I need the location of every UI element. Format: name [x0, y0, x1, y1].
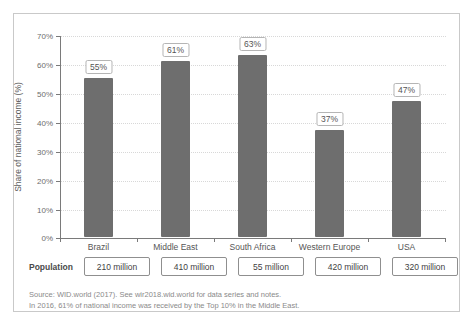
bar-value-label-usa: 47%	[393, 83, 420, 97]
category-label-usa: USA	[368, 242, 445, 252]
category-label-western-europe: Western Europe	[291, 242, 368, 252]
y-tick-label-70: 70%	[37, 32, 53, 41]
source-notes: Source: WID.world (2017). See wir2018.wi…	[29, 289, 439, 311]
bar-value-label-south-africa: 63%	[239, 37, 266, 51]
population-box-western-europe: 420 million	[315, 257, 381, 276]
bar-brazil[interactable]	[84, 78, 113, 237]
bar-middle-east[interactable]	[161, 61, 190, 237]
bar-usa[interactable]	[392, 101, 421, 237]
y-tick-label-30: 30%	[37, 148, 53, 157]
bar-western-europe[interactable]	[315, 130, 344, 237]
bar-wrap-middle-east: 61%	[161, 35, 190, 237]
bar-value-label-brazil: 55%	[85, 60, 112, 74]
y-tick-label-20: 20%	[37, 177, 53, 186]
bar-group-brazil: 55%	[60, 35, 137, 237]
category-label-south-africa: South Africa	[214, 242, 291, 252]
bar-wrap-south-africa: 63%	[238, 35, 267, 237]
bar-value-label-middle-east: 61%	[162, 43, 189, 57]
population-row: Population 210 million 410 million 55 mi…	[22, 257, 454, 279]
category-label-middle-east: Middle East	[137, 242, 214, 252]
y-tick-label-40: 40%	[37, 119, 53, 128]
y-tick-label-60: 60%	[37, 61, 53, 70]
bar-group-western-europe: 37%	[291, 35, 368, 237]
population-box-usa: 320 million	[392, 257, 458, 276]
y-tick-label-0: 0%	[41, 234, 53, 243]
category-label-row: Brazil Middle East South Africa Western …	[60, 242, 446, 256]
bar-value-label-western-europe: 37%	[316, 112, 343, 126]
y-axis-title-text: Share of national income (%)	[13, 32, 23, 242]
bar-south-africa[interactable]	[238, 55, 267, 237]
y-tick-label-10: 10%	[37, 206, 53, 215]
bar-wrap-brazil: 55%	[84, 35, 113, 237]
source-note-line-1: Source: WID.world (2017). See wir2018.wi…	[29, 289, 439, 300]
population-box-middle-east: 410 million	[161, 257, 227, 276]
population-row-label: Population	[29, 262, 73, 272]
y-tick-label-50: 50%	[37, 90, 53, 99]
bar-wrap-usa: 47%	[392, 35, 421, 237]
bar-group-usa: 47%	[368, 35, 445, 237]
bar-wrap-western-europe: 37%	[315, 35, 344, 237]
chart-figure: Share of national income (%) 70% 60% 50%…	[13, 13, 460, 312]
x-axis-line	[60, 238, 446, 239]
plot-area: 70% 60% 50% 40% 30% 20%	[60, 36, 446, 238]
y-axis-title: Share of national income (%)	[13, 0, 23, 32]
bar-group-middle-east: 61%	[137, 35, 214, 237]
category-label-brazil: Brazil	[60, 242, 137, 252]
population-box-south-africa: 55 million	[238, 257, 304, 276]
bar-group-south-africa: 63%	[214, 35, 291, 237]
population-box-brazil: 210 million	[84, 257, 150, 276]
source-note-line-2: In 2016, 61% of national income was rece…	[29, 300, 439, 311]
